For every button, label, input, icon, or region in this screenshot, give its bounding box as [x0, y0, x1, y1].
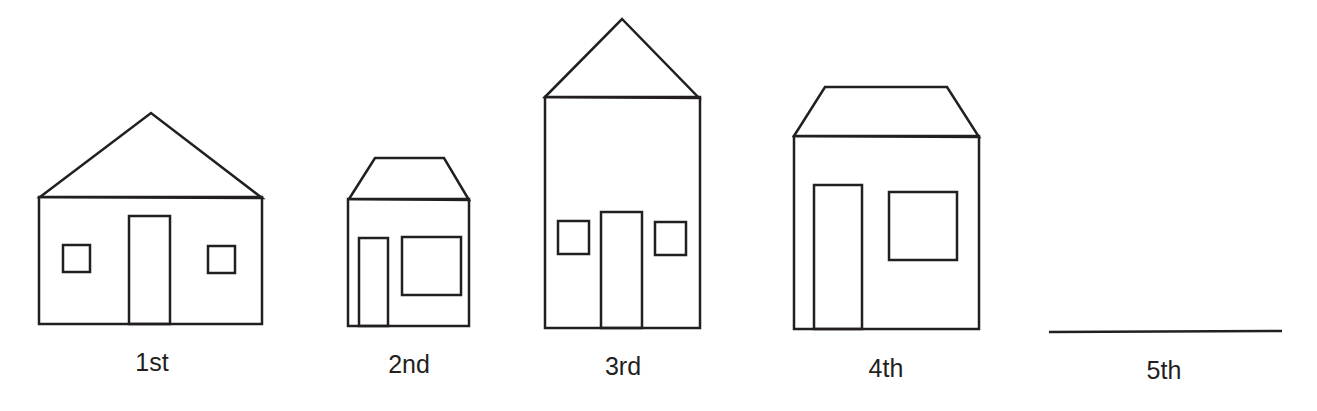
house-3rd [545, 19, 700, 328]
house-1st-window-right [208, 246, 235, 273]
house-3rd-door [601, 212, 642, 328]
house-2nd-roof [349, 158, 469, 200]
houses-diagram: 1st 2nd 3rd 4th 5th [0, 0, 1317, 411]
house-1st-door [129, 216, 170, 324]
house-5th-ground-line [1049, 331, 1282, 332]
house-4th-door [814, 185, 862, 329]
house-2nd-body [348, 199, 469, 326]
house-3rd-roof [545, 19, 699, 98]
house-1st-roof [40, 113, 262, 198]
house-4th-body [794, 136, 979, 329]
house-label-4th: 4th [869, 354, 904, 383]
house-3rd-window-right [655, 222, 686, 255]
house-3rd-window-left [558, 221, 589, 254]
house-1st-window-left [63, 245, 90, 272]
house-4th [794, 87, 979, 329]
house-label-2nd: 2nd [388, 350, 430, 379]
house-label-1st: 1st [135, 348, 168, 377]
house-label-3rd: 3rd [605, 352, 641, 381]
house-2nd-window [402, 237, 461, 295]
house-4th-roof [794, 87, 979, 137]
house-2nd-door [359, 238, 388, 326]
house-4th-window [889, 192, 957, 260]
house-2nd [348, 158, 469, 326]
house-label-5th: 5th [1147, 356, 1182, 385]
house-1st [39, 113, 262, 324]
house-5th [1049, 331, 1282, 332]
